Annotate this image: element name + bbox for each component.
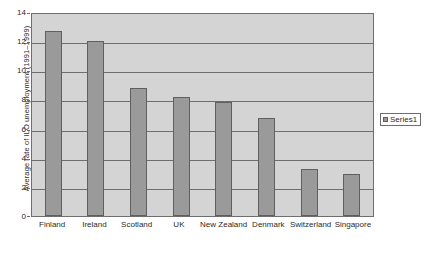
y-axis-tick-label: 12 bbox=[0, 38, 26, 46]
y-axis-tick-label: 14 bbox=[0, 9, 26, 17]
y-axis-tick-label: 6 bbox=[0, 126, 26, 134]
bar[interactable] bbox=[173, 97, 190, 216]
bar[interactable] bbox=[130, 88, 147, 216]
y-axis-tick-label: 4 bbox=[0, 155, 26, 163]
y-axis-tick-mark bbox=[27, 216, 30, 217]
x-axis-tick-label: Denmark bbox=[247, 220, 289, 230]
y-axis-tick-labels: 02468101214 bbox=[0, 13, 30, 217]
bar-slot bbox=[288, 14, 331, 216]
bar-slot bbox=[330, 14, 373, 216]
y-axis-tick-mark bbox=[27, 188, 30, 189]
y-axis-tick-mark bbox=[27, 130, 30, 131]
bars-layer bbox=[32, 14, 373, 216]
bar-slot bbox=[160, 14, 203, 216]
y-axis-tick-mark bbox=[27, 71, 30, 72]
bar-slot bbox=[32, 14, 75, 216]
bar[interactable] bbox=[343, 174, 360, 216]
y-axis-tick-label: 8 bbox=[0, 96, 26, 104]
x-axis-tick-labels: FinlandIrelandScotlandUKNew ZealandDenma… bbox=[31, 220, 374, 230]
y-axis-tick-label: 0 bbox=[0, 213, 26, 221]
y-axis-tick-mark bbox=[27, 42, 30, 43]
bar-slot bbox=[245, 14, 288, 216]
y-axis-tick-label: 10 bbox=[0, 67, 26, 75]
bar-slot bbox=[117, 14, 160, 216]
bar[interactable] bbox=[258, 118, 275, 216]
y-axis-tick-mark bbox=[27, 13, 30, 14]
legend-swatch-icon bbox=[383, 117, 388, 122]
y-axis-tick-mark bbox=[27, 100, 30, 101]
chart-legend[interactable]: Series1 bbox=[380, 113, 421, 126]
x-axis-tick-label: Singapore bbox=[332, 220, 374, 230]
x-axis-tick-label: New Zealand bbox=[200, 220, 247, 230]
x-axis-tick-label: Ireland bbox=[73, 220, 115, 230]
x-axis-tick-label: Finland bbox=[31, 220, 73, 230]
x-axis-tick-label: Scotland bbox=[116, 220, 158, 230]
bar[interactable] bbox=[87, 41, 104, 216]
bar[interactable] bbox=[301, 169, 318, 216]
x-axis-tick-label: UK bbox=[158, 220, 200, 230]
bar-chart: Average rate of ILO unemployment (1991–1… bbox=[0, 0, 426, 255]
legend-entry-label: Series1 bbox=[390, 115, 417, 124]
y-axis-tick-mark bbox=[27, 159, 30, 160]
plot-area bbox=[31, 13, 374, 217]
bar-slot bbox=[75, 14, 118, 216]
bar-slot bbox=[203, 14, 246, 216]
bar[interactable] bbox=[45, 31, 62, 216]
y-axis-tick-label: 2 bbox=[0, 184, 26, 192]
bar[interactable] bbox=[215, 102, 232, 216]
x-axis-tick-label: Switzerland bbox=[289, 220, 331, 230]
